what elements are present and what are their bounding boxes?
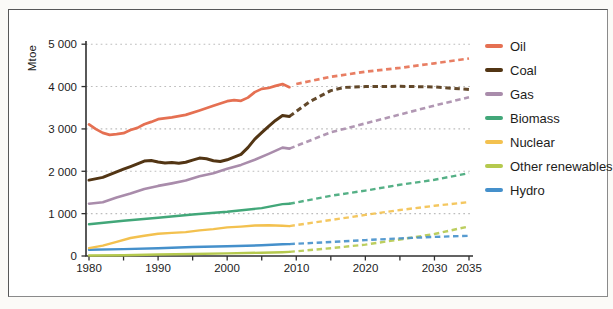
x-tick-label: 2010 [273, 261, 321, 275]
legend: Oil Coal Gas Biomass Nuclear Other renew… [485, 34, 603, 202]
legend-swatch-oil [485, 44, 503, 48]
series-biomass-projection-line [289, 173, 469, 204]
series-biomass-history-line [89, 204, 289, 225]
legend-item-biomass: Biomass [485, 106, 603, 130]
legend-item-other-renewables: Other renewables [485, 154, 603, 178]
y-tick-label: 4 000 [9, 80, 77, 94]
series-other-renewables-history-line [89, 252, 289, 256]
legend-label: Hydro [510, 183, 545, 198]
series-hydro-projection-line [289, 236, 469, 244]
legend-label: Coal [510, 63, 537, 78]
y-tick-label: 3 000 [9, 122, 77, 136]
legend-swatch-biomass [485, 116, 503, 120]
series-gas-projection-line [289, 97, 469, 148]
legend-label: Gas [510, 87, 534, 102]
series-coal-projection-line [289, 86, 469, 116]
legend-item-nuclear: Nuclear [485, 130, 603, 154]
y-tick-label: 1 000 [9, 207, 77, 221]
legend-item-hydro: Hydro [485, 178, 603, 202]
legend-item-oil: Oil [485, 34, 603, 58]
x-tick-label: 2020 [342, 261, 390, 275]
legend-label: Nuclear [510, 135, 555, 150]
series-oil-history-line [89, 84, 289, 135]
x-tick-label: 2000 [203, 261, 251, 275]
x-tick-label: 2035 [445, 261, 493, 275]
legend-label: Oil [510, 39, 526, 54]
legend-item-coal: Coal [485, 58, 603, 82]
legend-label: Biomass [510, 111, 560, 126]
x-tick-label: 1980 [65, 261, 113, 275]
series-hydro-history-line [89, 244, 289, 250]
y-tick-label: 5 000 [9, 37, 77, 51]
legend-label: Other renewables [510, 159, 613, 174]
legend-item-gas: Gas [485, 82, 603, 106]
series-oil-projection-line [296, 59, 469, 85]
x-tick-label: 1990 [134, 261, 182, 275]
series-coal-history-line [89, 116, 289, 181]
legend-swatch-hydro [485, 188, 503, 192]
legend-swatch-nuclear [485, 140, 503, 144]
figure-frame: Mtoe 0 1 000 2 000 3 000 4 000 5 000 198… [8, 9, 608, 297]
series-other-renewables-projection-line [289, 226, 469, 252]
legend-swatch-coal [485, 68, 503, 72]
legend-swatch-gas [485, 92, 503, 96]
series-gas-history-line [89, 148, 289, 204]
legend-swatch-other-renewables [485, 164, 503, 168]
y-tick-label: 2 000 [9, 165, 77, 179]
